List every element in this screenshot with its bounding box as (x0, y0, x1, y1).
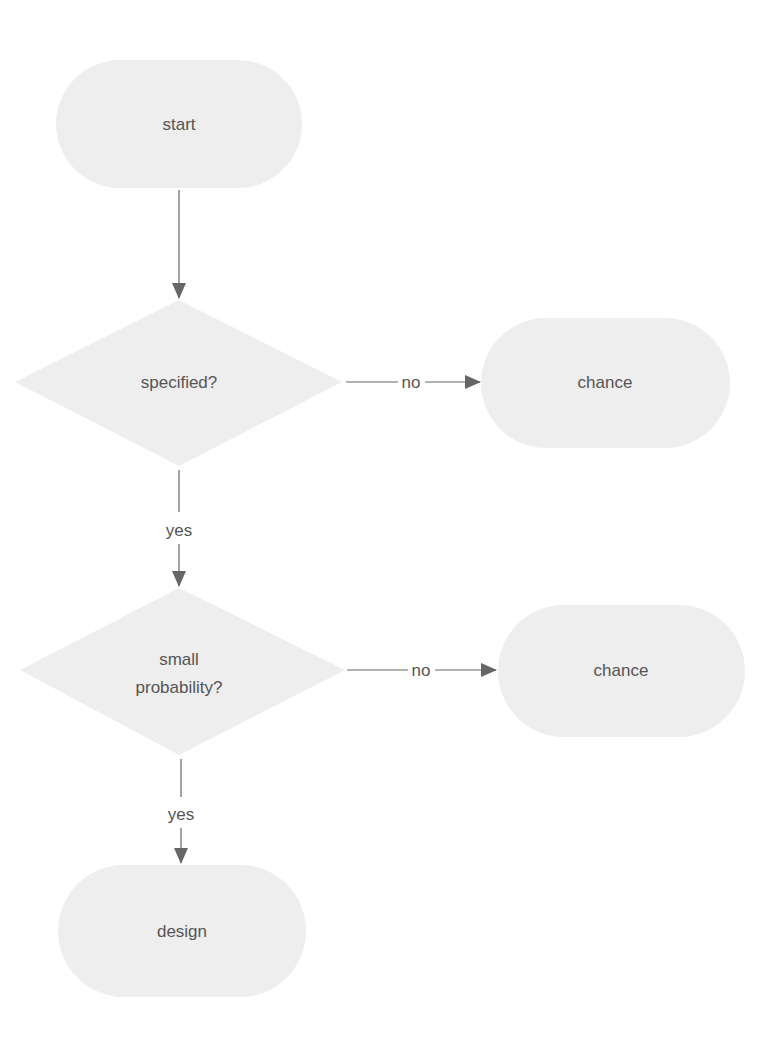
node-design: design (58, 865, 306, 997)
edge-specified-yes: yes (166, 470, 192, 586)
edge-small-probability-no-label: no (412, 661, 431, 680)
edge-small-probability-yes: yes (168, 759, 194, 863)
node-chance-1: chance (481, 318, 730, 448)
node-start: start (56, 60, 302, 188)
node-chance-1-label: chance (578, 373, 633, 392)
node-specified-label: specified? (141, 373, 218, 392)
edge-small-probability-yes-label: yes (168, 805, 194, 824)
node-chance-2: chance (498, 605, 745, 737)
flowchart-canvas: start specified? no chance yes small pro… (0, 0, 777, 1039)
node-design-label: design (157, 922, 207, 941)
node-small-probability-label-line1: small (159, 650, 199, 669)
edge-specified-no-label: no (402, 373, 421, 392)
edge-small-probability-no: no (347, 661, 496, 680)
edge-specified-no: no (346, 373, 480, 392)
node-chance-2-label: chance (594, 661, 649, 680)
node-small-probability-decision: small probability? (20, 588, 345, 755)
node-start-label: start (162, 115, 195, 134)
node-specified-decision: specified? (15, 300, 342, 466)
node-small-probability-label-line2: probability? (136, 678, 223, 697)
edge-specified-yes-label: yes (166, 521, 192, 540)
